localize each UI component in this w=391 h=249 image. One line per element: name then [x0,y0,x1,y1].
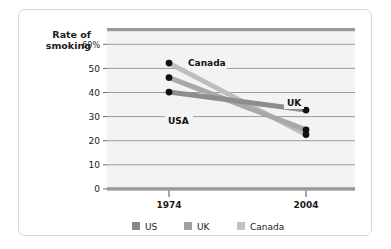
annotation-uk: UK [287,98,302,108]
data-point-canada-1974 [166,60,173,67]
plot-background [107,28,355,191]
x-axis-line [107,187,355,190]
legend-swatch-canada [237,222,245,230]
smoking-rate-line-chart: 60% 50 40 30 20 10 0 Rate of smoking 197… [19,10,373,237]
legend-item-canada[interactable]: Canada [237,222,284,232]
ytick-label-0: 0 [94,184,100,194]
ytick-label-50: 50 [89,64,101,74]
annotation-canada: Canada [188,58,226,68]
annotation-usa: USA [168,116,189,126]
ytick-label-20: 20 [89,136,101,146]
legend-swatch-uk [184,222,192,230]
plot-top-rule [107,28,355,31]
legend-item-uk[interactable]: UK [184,222,211,232]
legend-item-us[interactable]: US [132,222,158,232]
data-point-uk-1974 [166,74,173,81]
chart-legend: US UK Canada [132,222,284,232]
chart-figure-card: 60% 50 40 30 20 10 0 Rate of smoking 197… [18,9,372,236]
ytick-label-30: 30 [89,112,101,122]
legend-label-us: US [145,222,158,232]
xtick-label-1974: 1974 [156,200,181,210]
legend-label-canada: Canada [250,222,284,232]
ytick-label-10: 10 [89,160,101,170]
data-point-canada-2004 [303,131,310,138]
data-point-us-1974 [166,89,173,96]
legend-swatch-us [132,222,140,230]
y-axis-title-line1: Rate of [52,29,92,40]
legend-label-uk: UK [197,222,211,232]
ytick-label-40: 40 [89,88,101,98]
chart-svg: 60% 50 40 30 20 10 0 Rate of smoking 197… [19,10,373,237]
xtick-label-2004: 2004 [293,200,318,210]
y-axis-title-line2: smoking [46,40,91,51]
